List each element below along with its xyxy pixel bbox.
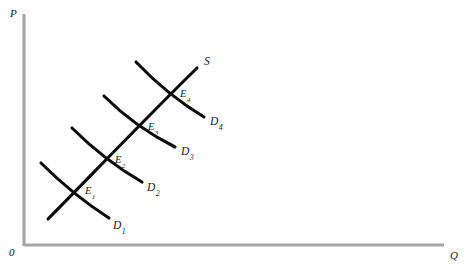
equilibrium-point-4-label: E4 xyxy=(180,89,190,102)
supply-curve xyxy=(48,68,197,219)
supply-curve-label: S xyxy=(204,56,210,68)
diagram-canvas xyxy=(0,0,472,271)
supply-demand-diagram: P Q 0 S D1 D2 D3 D4 E1 E2 E3 E4 xyxy=(0,0,472,271)
demand-curve-4-label: D4 xyxy=(210,116,222,130)
demand-curve-3-label: D3 xyxy=(181,146,193,160)
demand-curve-2 xyxy=(72,128,142,182)
price-axis-label: P xyxy=(10,8,17,19)
equilibrium-point-3-label: E3 xyxy=(148,122,158,135)
demand-curve-3 xyxy=(104,96,175,147)
equilibrium-point-1-label: E1 xyxy=(85,186,95,199)
quantity-axis-label: Q xyxy=(450,250,458,261)
demand-curve-1-label: D1 xyxy=(113,220,125,234)
origin-label: 0 xyxy=(9,247,15,258)
demand-curve-2-label: D2 xyxy=(147,182,159,196)
equilibrium-point-2-label: E2 xyxy=(115,155,125,168)
